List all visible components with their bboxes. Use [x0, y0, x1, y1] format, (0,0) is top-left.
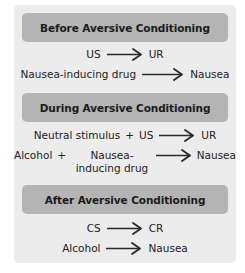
plus-sign: + [57, 149, 66, 162]
stimulus-term: Nausea-inducing drug [21, 68, 137, 81]
relation-row: Alcohol Nausea [14, 242, 236, 255]
response-term: Nausea [197, 149, 236, 162]
relation-row: US UR [14, 48, 236, 61]
arrow-right-icon [155, 149, 192, 162]
stimulus-term: CS [87, 222, 101, 235]
arrow-right-icon [106, 222, 144, 235]
section-title: After Aversive Conditioning [45, 194, 206, 206]
section-header-during: During Aversive Conditioning [22, 93, 228, 122]
response-term: Nausea [190, 68, 229, 81]
section-title: Before Aversive Conditioning [40, 22, 210, 34]
stimulus-term: US [86, 48, 100, 61]
arrow-right-icon [105, 242, 143, 255]
arrow-right-icon [158, 129, 196, 142]
stimulus-term: Neutral stimulus [34, 129, 121, 142]
section-title: During Aversive Conditioning [40, 102, 211, 114]
arrow-right-icon [141, 68, 185, 81]
plus-sign: + [125, 129, 134, 142]
response-term: CR [149, 222, 164, 235]
conditioning-panel: Before Aversive Conditioning US UR Nause… [14, 5, 236, 263]
stimulus-term: US [139, 129, 153, 142]
stimulus-term: Alcohol [14, 149, 52, 162]
response-term: UR [201, 129, 216, 142]
relation-row: Alcohol + Nausea-inducing drug Nausea [14, 149, 236, 175]
section-header-after: After Aversive Conditioning [22, 185, 228, 214]
relation-row: Neutral stimulus + US UR [14, 129, 236, 142]
arrow-right-icon [106, 48, 144, 61]
response-term: Nausea [148, 242, 187, 255]
section-header-before: Before Aversive Conditioning [22, 13, 228, 42]
stimulus-term: Alcohol [62, 242, 100, 255]
response-term: UR [149, 48, 164, 61]
relation-row: Nausea-inducing drug Nausea [14, 68, 236, 81]
stimulus-term: Nausea-inducing drug [71, 149, 153, 175]
relation-row: CS CR [14, 222, 236, 235]
